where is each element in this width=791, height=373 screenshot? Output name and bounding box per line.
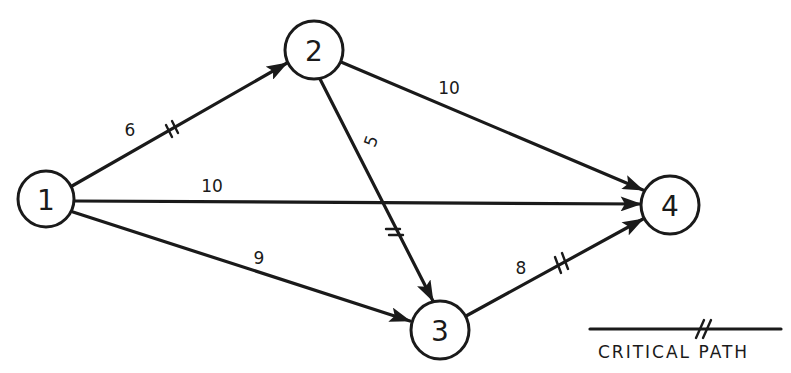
edge-1-3-line (73, 212, 410, 321)
node-2-label: 2 (305, 35, 323, 68)
node-4-label: 4 (661, 190, 679, 223)
node-2: 2 (285, 21, 343, 79)
edge-1-2: 6 (72, 63, 287, 186)
edge-2-3-weight: 5 (360, 132, 382, 149)
node-1: 1 (18, 171, 74, 227)
edge-2-4: 10 (341, 62, 643, 190)
edge-3-4-weight: 8 (516, 258, 527, 278)
edge-2-3: 5 (320, 79, 433, 301)
edge-1-4: 10 (75, 176, 641, 204)
edge-1-3: 9 (73, 212, 410, 321)
node-4: 4 (641, 176, 699, 234)
legend: CRITICAL PATH (590, 320, 781, 362)
edge-1-3-weight: 9 (254, 248, 265, 268)
edge-1-4-weight: 10 (201, 176, 223, 196)
edge-1-2-line (72, 63, 287, 186)
edge-2-3-line (320, 79, 433, 301)
network-diagram: 6 10 9 10 5 8 1 2 3 4 (0, 0, 791, 373)
node-3-label: 3 (431, 315, 449, 348)
edge-2-4-weight: 10 (438, 78, 460, 98)
edge-2-4-line (341, 62, 643, 190)
edge-1-4-line (75, 201, 641, 204)
legend-label: CRITICAL PATH (598, 342, 749, 362)
edge-3-4-line (466, 219, 643, 316)
node-1-label: 1 (37, 184, 55, 217)
edge-1-2-weight: 6 (125, 120, 136, 140)
edge-3-4: 8 (466, 219, 643, 316)
node-3: 3 (411, 301, 469, 359)
